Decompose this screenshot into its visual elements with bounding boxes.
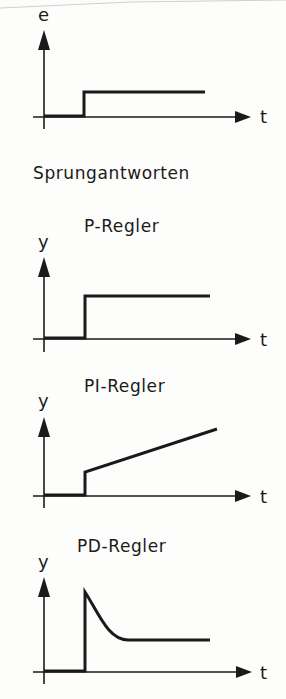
pd-regler-chart: [33, 577, 252, 684]
y-axis-arrow-icon: [38, 30, 50, 50]
pi-regler-title: PI-Regler: [84, 378, 165, 395]
p-regler-chart: [33, 257, 251, 352]
x-axis-arrow-icon: [235, 490, 251, 502]
input-y-axis-label: e: [38, 6, 50, 24]
pi-regler-chart: [33, 417, 251, 508]
y-axis-arrow-icon: [38, 417, 50, 437]
pi-regler-x-label: t: [260, 488, 268, 506]
pi-regler-y-label: y: [38, 392, 49, 410]
pd-regler-y-label: y: [38, 553, 49, 571]
step-curve: [44, 92, 205, 116]
pd-regler-x-label: t: [260, 664, 268, 682]
section-title: Sprungantworten: [33, 165, 190, 182]
x-axis-arrow-icon: [235, 333, 251, 345]
pi-response-curve: [44, 429, 217, 495]
y-axis-arrow-icon: [38, 257, 50, 277]
p-regler-x-label: t: [260, 331, 268, 349]
p-response-curve: [44, 296, 210, 338]
y-axis-arrow-icon: [38, 577, 50, 597]
input-x-axis-label: t: [260, 108, 268, 126]
pd-response-curve: [44, 592, 210, 671]
p-regler-title: P-Regler: [84, 218, 159, 235]
pd-regler-title: PD-Regler: [77, 538, 166, 555]
x-axis-arrow-icon: [236, 666, 252, 678]
input-step-chart: [33, 30, 251, 129]
p-regler-y-label: y: [38, 233, 49, 251]
x-axis-arrow-icon: [235, 111, 251, 123]
diagram-canvas: [0, 0, 286, 699]
